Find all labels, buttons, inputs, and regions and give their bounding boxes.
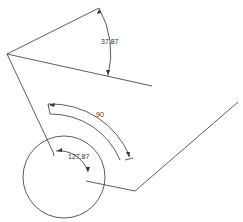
dimension-label-90: 90 (96, 111, 104, 118)
arrowhead-icon (106, 70, 110, 75)
dimension-extension (48, 104, 50, 114)
sketch-canvas: 37.87 90 127.87 (0, 0, 243, 222)
top-edge-line[interactable] (7, 8, 99, 54)
arrowhead-icon (57, 148, 62, 152)
bottom-edge-line[interactable] (86, 181, 135, 191)
dimension-label-top: 37.87 (101, 38, 119, 45)
right-edge-line[interactable] (135, 102, 238, 191)
circle-shape[interactable] (23, 136, 105, 218)
dimension-extension (125, 158, 133, 160)
middle-edge-line[interactable] (7, 54, 152, 86)
left-edge-line[interactable] (7, 54, 53, 152)
dimension-label-circle: 127.87 (68, 153, 90, 160)
arrowhead-icon (86, 167, 90, 172)
dimension-extension (53, 152, 54, 156)
